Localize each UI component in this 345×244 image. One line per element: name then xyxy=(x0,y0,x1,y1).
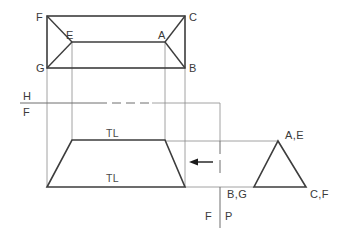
top-view-diagonal-g-e xyxy=(47,42,72,68)
top-view-group xyxy=(47,16,185,68)
technical-drawing-canvas: F C G B E A H F TL TL A,E C,F B,G F P xyxy=(0,0,345,244)
view-direction-arrow-group xyxy=(189,159,213,166)
orthographic-projection-drawing: F C G B E A H F TL TL A,E C,F B,G F P xyxy=(0,0,345,244)
labels-group: F C G B E A H F TL TL A,E C,F B,G F P xyxy=(23,11,329,222)
label-tl-lower: TL xyxy=(106,172,119,184)
projection-lines-group xyxy=(47,42,278,187)
label-fold-p-vertical: P xyxy=(225,210,233,222)
label-top-view-c: C xyxy=(189,11,197,23)
side-view-group xyxy=(254,141,306,187)
view-direction-arrow-head xyxy=(189,159,198,166)
label-side-view-ae: A,E xyxy=(285,129,304,141)
label-top-view-a: A xyxy=(158,29,166,41)
top-view-diagonal-b-a xyxy=(165,42,185,68)
side-view-triangle xyxy=(254,141,306,187)
label-top-view-e: E xyxy=(66,29,74,41)
label-tl-upper: TL xyxy=(106,127,119,139)
label-fold-h: H xyxy=(23,90,31,102)
label-fold-f-vertical: F xyxy=(205,210,212,222)
label-top-view-f: F xyxy=(36,11,43,23)
label-fold-f-horizontal: F xyxy=(23,106,30,118)
label-side-view-bg: B,G xyxy=(227,188,247,200)
label-top-view-g: G xyxy=(36,62,45,74)
label-side-view-cf: C,F xyxy=(310,188,329,200)
label-top-view-b: B xyxy=(189,62,197,74)
top-view-diagonal-c-a xyxy=(165,16,185,42)
